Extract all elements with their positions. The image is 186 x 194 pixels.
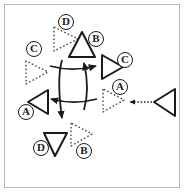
label-badge-a-right: A — [112, 79, 128, 95]
diagram-canvas — [0, 0, 186, 194]
label-badge-b-top: B — [88, 31, 104, 47]
triangle-c-left — [26, 61, 48, 84]
label-badge-c-right: C — [117, 52, 133, 68]
label-badge-c-left: C — [26, 41, 42, 57]
label-badge-a-left: A — [18, 104, 34, 120]
label-badge-d-bottom: D — [33, 140, 49, 156]
rotation-arrow-up — [84, 63, 87, 110]
label-badge-b-bottom: B — [76, 143, 92, 159]
figure-root: D B C C A A D B — [0, 0, 186, 194]
rotation-arrow-left — [51, 99, 97, 102]
triangle-source — [154, 89, 175, 116]
rotation-arrow-right — [50, 66, 96, 69]
label-badge-d-top: D — [58, 14, 74, 30]
